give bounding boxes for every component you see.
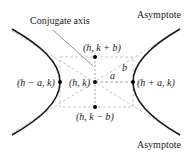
vertex-left-point	[58, 80, 62, 84]
asymptote-top-label: Asymptote	[137, 9, 181, 20]
covertex-top-point	[93, 55, 97, 59]
asymptote-bottom-label: Asymptote	[137, 139, 181, 150]
center-label: (h, k)	[69, 77, 91, 89]
conjugate-axis-label: Conjugate axis	[30, 15, 90, 26]
vertex-right-label: (h + a, k)	[137, 77, 176, 89]
covertex-bottom-point	[93, 105, 97, 109]
vertex-right-point	[131, 80, 135, 84]
hyperbola-diagram: Conjugate axis Asymptote Asymptote (h, k…	[0, 0, 189, 158]
semi-axis-a-label: a	[110, 70, 115, 81]
covertex-top-label: (h, k + b)	[83, 42, 122, 54]
vertex-left-label: (h − a, k)	[17, 77, 56, 89]
semi-axis-b-label: b	[122, 62, 127, 73]
center-point	[93, 80, 97, 84]
covertex-bottom-label: (h, k − b)	[76, 111, 115, 123]
